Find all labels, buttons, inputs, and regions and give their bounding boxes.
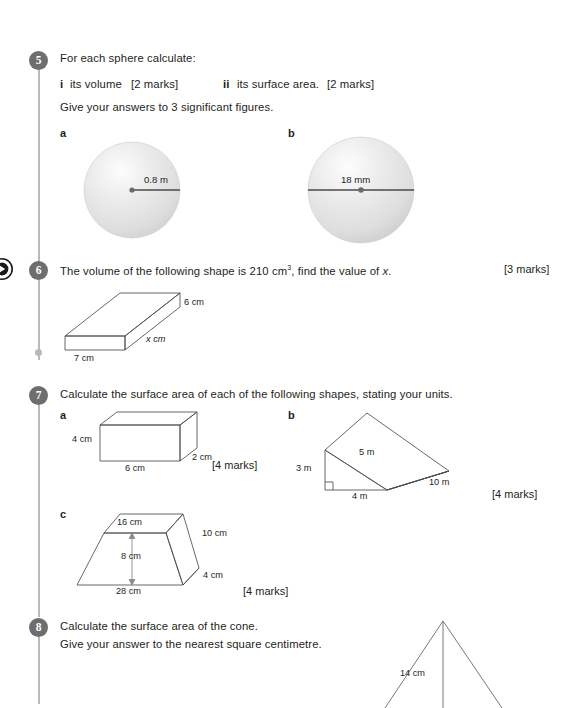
question-rail-end-dot [35, 349, 42, 356]
sphere-a-diagram [80, 136, 190, 240]
q8-line-2: Give your answer to the nearest square c… [60, 638, 322, 650]
q7a-label-width: 6 cm [125, 463, 145, 473]
q7b-label-height: 3 m [296, 463, 311, 473]
sphere-b-diameter-label: 18 mm [341, 174, 370, 185]
q5-part-ii-text: its surface area. [237, 78, 319, 90]
q8-line-1: Calculate the surface area of the cone. [60, 620, 258, 632]
q7a-label-depth: 2 cm [192, 452, 212, 462]
q7a-label-height: 4 cm [72, 434, 92, 444]
q6-cuboid-diagram [62, 285, 262, 355]
question-rail-7 [38, 392, 40, 617]
q7c-label-height: 8 cm [121, 551, 141, 561]
q7-part-label-b: b [288, 409, 295, 421]
question-number-8: 8 [29, 618, 48, 637]
q6-label-width: 7 cm [74, 353, 94, 363]
question-rail-8 [38, 630, 40, 704]
q7c-marks: [4 marks] [243, 585, 288, 597]
q7b-label-length: 10 m [429, 477, 449, 487]
q7-text: Calculate the surface area of each of th… [60, 388, 453, 400]
q5-line-1: For each sphere calculate: [60, 52, 196, 64]
q5-part-i-marks: [2 marks] [131, 78, 178, 90]
q7-part-label-c: c [60, 508, 66, 520]
q7-part-label-a: a [60, 409, 66, 421]
q7c-label-length: 10 cm [202, 528, 227, 538]
q6-label-x: x cm [146, 334, 165, 344]
q6-label-height: 6 cm [184, 297, 204, 307]
q7c-trapezoidal-prism-diagram [70, 506, 250, 594]
question-number-5: 5 [29, 51, 48, 70]
q8-label-slant: 14 cm [400, 668, 425, 678]
q7b-label-slope: 5 m [359, 447, 374, 457]
q7c-label-base: 28 cm [116, 586, 141, 596]
media-play-icon[interactable] [0, 258, 13, 280]
q7b-prism-diagram [315, 408, 475, 500]
q5-part-ii-marks: [2 marks] [327, 78, 374, 90]
q5-part-label-b: b [288, 127, 295, 139]
q5-part-i-marker: i [60, 78, 63, 90]
q7c-label-side: 4 cm [203, 570, 223, 580]
q7b-label-base: 4 m [352, 491, 367, 501]
q7b-marks: [4 marks] [492, 488, 537, 500]
sphere-b-diagram [303, 132, 423, 246]
q6-text-before: The volume of the following shape is 210… [60, 265, 287, 277]
q6-text-end: . [388, 265, 391, 277]
q5-part-ii-marker: ii [223, 78, 229, 90]
q6-text: The volume of the following shape is 210… [60, 263, 392, 277]
q7c-label-top: 16 cm [117, 517, 142, 527]
q5-part-i-text: its volume [70, 78, 122, 90]
question-number-7: 7 [29, 386, 48, 405]
q7a-marks: [4 marks] [212, 459, 257, 471]
q8-cone-diagram [372, 616, 532, 708]
q6-text-after: , find the value of [291, 265, 382, 277]
q5-part-label-a: a [60, 127, 66, 139]
question-number-6: 6 [29, 261, 48, 280]
question-rail-5 [38, 60, 40, 360]
q5-line-2: Give your answers to 3 significant figur… [60, 101, 273, 113]
sphere-a-radius-label: 0.8 m [144, 174, 168, 185]
q6-marks: [3 marks] [504, 263, 549, 275]
